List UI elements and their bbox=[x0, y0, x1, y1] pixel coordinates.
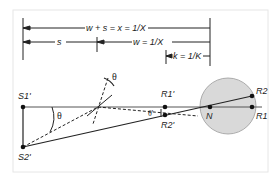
arrow-left-icon bbox=[23, 26, 30, 30]
r1-prime-label: R1' bbox=[161, 89, 175, 99]
theta-arc bbox=[50, 107, 54, 132]
s1-dot bbox=[21, 105, 26, 110]
theta-prime-label: θ' bbox=[148, 109, 154, 118]
s-label: s bbox=[57, 37, 62, 47]
s1-label: S1' bbox=[18, 91, 31, 101]
r2-prime-dot bbox=[163, 113, 168, 118]
n-dot bbox=[208, 105, 213, 110]
mirror bbox=[87, 95, 112, 116]
arrow-left-icon bbox=[166, 54, 172, 58]
r1-dot bbox=[250, 105, 255, 110]
total-distance-label: w + s = x = 1/X bbox=[86, 23, 147, 33]
theta-label: θ bbox=[57, 110, 62, 121]
s2-dot bbox=[21, 145, 26, 150]
dashed-normal bbox=[93, 78, 108, 124]
r2-dot bbox=[250, 94, 255, 99]
r2-prime-label: R2' bbox=[161, 120, 175, 130]
r1-prime-dot bbox=[163, 105, 168, 110]
r2-label: R2 bbox=[256, 86, 268, 96]
arrow-left-icon bbox=[23, 40, 30, 44]
r1-label: R1 bbox=[256, 111, 268, 121]
n-label: N bbox=[206, 111, 213, 121]
diagram-canvas: w + s = x = 1/X s w = 1/X k = 1/K S1' S2… bbox=[0, 0, 280, 177]
s2-label: S2' bbox=[18, 152, 31, 162]
k-label: k = 1/K bbox=[173, 51, 202, 61]
arrow-left-icon bbox=[97, 40, 104, 44]
theta-top-label: θ bbox=[112, 71, 117, 82]
w-label: w = 1/X bbox=[133, 37, 164, 47]
